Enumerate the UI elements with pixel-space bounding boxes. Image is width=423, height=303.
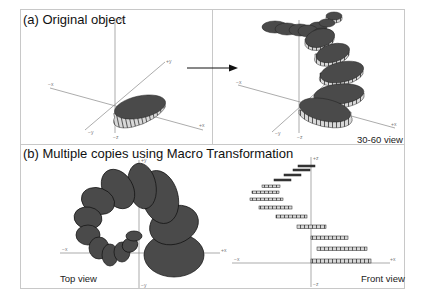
- top-axis-label-ny: −y: [141, 282, 147, 288]
- spiral-discs: [72, 161, 204, 277]
- axis-label-nz: −z: [113, 134, 119, 140]
- axis-label-pz: +z: [118, 16, 124, 22]
- axis-label-nz-result: −z: [297, 134, 303, 140]
- axis-label-ny: −y: [88, 129, 94, 135]
- front-axis-label-nz: −z: [313, 281, 319, 287]
- diagram-canvas: +z −z +x −x +y −y −z +x −x −y: [0, 0, 423, 303]
- top-axis-label-py: +y: [141, 157, 147, 163]
- axis-label-px: +x: [199, 122, 205, 128]
- front-axis-label-px: +x: [390, 256, 396, 262]
- top-axis-label-px: +x: [221, 247, 227, 253]
- top-axis-label-nx: −x: [62, 246, 68, 252]
- axis-label-nx-result: −x: [236, 79, 242, 85]
- front-axis-label-nx: −x: [234, 256, 240, 262]
- disc-stack: [262, 12, 366, 128]
- axis-label-ny-result: −y: [275, 130, 281, 136]
- axis-label-py: +y: [166, 58, 172, 64]
- transform-arrow: [187, 65, 238, 72]
- front-view-discs: [250, 165, 371, 263]
- front-axis-label-pz: +z: [313, 155, 319, 161]
- axis-label-px-result: +x: [391, 121, 397, 127]
- front-view-axes: [232, 157, 390, 287]
- axis-label-nx: −x: [48, 81, 54, 87]
- disc-original: [112, 91, 168, 131]
